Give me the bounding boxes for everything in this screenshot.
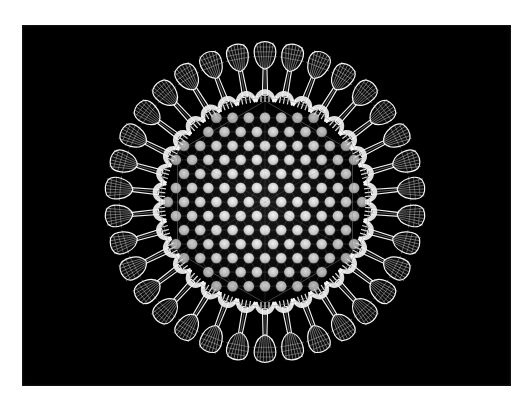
capsomere-dot (348, 210, 360, 222)
capsomere-dot (251, 210, 263, 222)
capsomere-dot (243, 140, 255, 152)
capsomere-dot (170, 210, 182, 222)
capsomere-dot (251, 238, 263, 250)
capsomere-dot (251, 126, 263, 138)
capsomere-dot (308, 280, 320, 292)
capsomere-dot (275, 252, 287, 264)
capsomere-dot (324, 168, 336, 180)
capsomere-dot (243, 252, 255, 264)
virus-illustration-photo (22, 25, 511, 386)
capsomere-dot (202, 238, 214, 250)
capsomere-dot (316, 238, 328, 250)
capsomere-dot (283, 266, 295, 278)
capsomere-dot (316, 210, 328, 222)
capsomere-dot (227, 224, 239, 236)
capsomere-dot (292, 140, 304, 152)
capsomere-dot (267, 210, 279, 222)
capsomere-dot (194, 252, 206, 264)
capsomere-dot (292, 252, 304, 264)
capsomere-dot (235, 266, 247, 278)
image-canvas (0, 0, 531, 408)
capsomere-dot (219, 238, 231, 250)
capsomere-dot (267, 238, 279, 250)
capsomere-dot (308, 112, 320, 124)
capsomere-dot (324, 252, 336, 264)
capsomere-dot (194, 168, 206, 180)
capsomere-dot (194, 196, 206, 208)
capsomere-dot (275, 140, 287, 152)
capsomere-dot (300, 126, 312, 138)
capsomere-dot (332, 210, 344, 222)
capsomere-dot (292, 196, 304, 208)
capsomere-dot (324, 140, 336, 152)
capsomere-dot (300, 266, 312, 278)
capsomere-dot (178, 224, 190, 236)
capsomere-dot (243, 168, 255, 180)
capsomere-dot (251, 182, 263, 194)
capsomere-dot (235, 238, 247, 250)
capsomere-dot (227, 252, 239, 264)
capsomere-dot (235, 126, 247, 138)
capsomere-dot (267, 182, 279, 194)
capsomere-dot (186, 182, 198, 194)
capsomere-dot (227, 140, 239, 152)
capsomere-dot (292, 168, 304, 180)
capsomere-dot (308, 196, 320, 208)
capsomere-dot (251, 266, 263, 278)
capsomere-dot (340, 168, 352, 180)
capsomere-dot (219, 210, 231, 222)
capsomere-dot (186, 210, 198, 222)
capsomere-dot (300, 238, 312, 250)
capsomere-dot (267, 154, 279, 166)
capsomere-dot (243, 224, 255, 236)
capsomere-dot (227, 196, 239, 208)
capsomere-dot (308, 252, 320, 264)
capsomere-dot (219, 154, 231, 166)
capsomere-dot (194, 224, 206, 236)
capsomere-dot (251, 154, 263, 166)
capsomere-dot (178, 168, 190, 180)
capsomere-dot (275, 196, 287, 208)
capsomere-dot (332, 182, 344, 194)
capsomere-dot (267, 266, 279, 278)
capsomere-dot (243, 112, 255, 124)
capsomere-dot (211, 196, 223, 208)
capsomere-dot (275, 280, 287, 292)
capsomere-dot (340, 224, 352, 236)
capsomere-dot (275, 168, 287, 180)
capsomere-dot (267, 126, 279, 138)
capsomere-dot (243, 196, 255, 208)
capsomere-dot (202, 154, 214, 166)
capsomere-dot (211, 112, 223, 124)
capsomere-dot (308, 140, 320, 152)
capsomere-dot (283, 126, 295, 138)
capsomere-dot (211, 280, 223, 292)
capsomere-dot (219, 126, 231, 138)
capsomere-dot (219, 266, 231, 278)
capsomere-dot (300, 182, 312, 194)
capsomere-dot (275, 112, 287, 124)
capsomere-dot (170, 182, 182, 194)
virus-wireframe-svg (22, 25, 511, 386)
capsomere-dot (194, 140, 206, 152)
capsomere-dot (243, 280, 255, 292)
capsomere-dot (202, 210, 214, 222)
capsomere-dot (211, 252, 223, 264)
capsomere-dot (292, 224, 304, 236)
capsomere-dot (219, 182, 231, 194)
capsomere-dot (235, 154, 247, 166)
capsomere-dot (211, 140, 223, 152)
capsomere-dot (283, 238, 295, 250)
capsomere-dot (300, 210, 312, 222)
capsomere-dot (356, 196, 368, 208)
capsomere-dot (300, 154, 312, 166)
capsomere-dot (324, 224, 336, 236)
capsomere-dot (316, 154, 328, 166)
capsomere-dot (202, 182, 214, 194)
capsomere-dot (348, 182, 360, 194)
capsomere-dot (324, 196, 336, 208)
capsomere-dot (340, 196, 352, 208)
capsomere-dot (178, 196, 190, 208)
capsomere-dot (162, 196, 174, 208)
capsomere-dot (227, 168, 239, 180)
